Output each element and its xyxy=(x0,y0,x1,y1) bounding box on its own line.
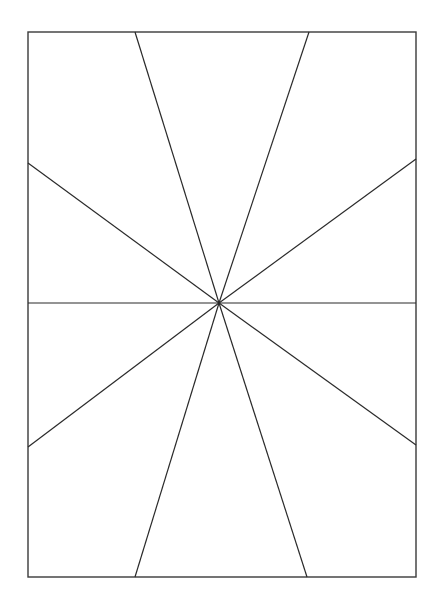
radiating-lines-figure xyxy=(0,0,440,614)
